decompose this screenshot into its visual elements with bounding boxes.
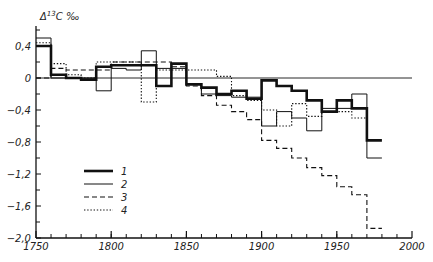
legend-label-2: 2 xyxy=(121,179,127,190)
y-tick-label: −2,0 xyxy=(7,233,31,244)
y-tick-label: −0,8 xyxy=(7,137,31,148)
y-tick-label: −1,6 xyxy=(7,201,31,212)
x-tick-label: 1800 xyxy=(98,241,123,252)
legend-label-4: 4 xyxy=(121,205,127,216)
y-tick-label: 0 xyxy=(25,73,31,84)
y-tick-label: 0,4 xyxy=(15,41,31,52)
x-tick-label: 1900 xyxy=(249,241,274,252)
y-axis-label: Δ13C ‰ xyxy=(39,10,79,22)
chart-area: 1750180018501900195020000,40−0,4−0,8−1,2… xyxy=(0,0,433,262)
series-group xyxy=(36,38,382,228)
axes: 1750180018501900195020000,40−0,4−0,8−1,2… xyxy=(7,26,425,252)
legend-label-1: 1 xyxy=(121,166,127,177)
series-2-line xyxy=(36,38,382,158)
series-1-line xyxy=(36,46,382,140)
x-tick-label: 1950 xyxy=(324,241,349,252)
legend-label-3: 3 xyxy=(121,192,127,203)
y-tick-label: −0,4 xyxy=(7,105,31,116)
y-tick-label: −1,2 xyxy=(7,169,31,180)
legend: 1234 xyxy=(84,166,127,216)
x-tick-label: 1850 xyxy=(174,241,199,252)
x-tick-label: 2000 xyxy=(399,241,424,252)
